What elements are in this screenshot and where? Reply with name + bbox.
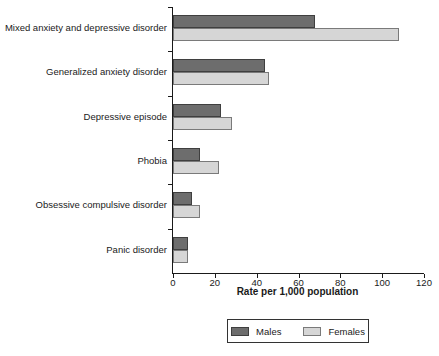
bar-males — [173, 192, 192, 205]
category-label: Obsessive compulsive disorder — [36, 199, 167, 211]
legend-swatch-females — [303, 327, 321, 336]
category-label: Panic disorder — [106, 244, 167, 256]
bar-females — [173, 161, 219, 174]
x-axis-title: Rate per 1,000 population — [172, 286, 423, 297]
bar-males — [173, 104, 221, 117]
legend-swatch-males — [231, 327, 249, 336]
bar-males — [173, 237, 188, 250]
plot-area — [172, 7, 424, 274]
y-axis-tick-mark — [168, 184, 172, 185]
bar-males — [173, 148, 200, 161]
y-axis-tick-mark — [168, 140, 172, 141]
bar-females — [173, 250, 188, 263]
bar-males — [173, 15, 315, 28]
bar-females — [173, 28, 399, 41]
legend-label-females: Females — [328, 326, 364, 337]
y-axis-tick-mark — [168, 229, 172, 230]
bar-females — [173, 72, 269, 85]
bar-females — [173, 117, 232, 130]
bar-males — [173, 59, 265, 72]
category-label: Phobia — [137, 155, 167, 167]
y-axis-tick-mark — [168, 96, 172, 97]
category-label: Depressive episode — [84, 111, 167, 123]
legend-label-males: Males — [256, 326, 281, 337]
category-label: Mixed anxiety and depressive disorder — [5, 22, 167, 34]
legend: Males Females — [227, 319, 369, 343]
bar-females — [173, 205, 200, 218]
y-axis-tick-mark — [168, 7, 172, 8]
legend-item-females: Females — [303, 326, 364, 337]
legend-item-males: Males — [231, 326, 281, 337]
y-axis-tick-mark — [168, 51, 172, 52]
bar-chart-figure: Mixed anxiety and depressive disorderGen… — [0, 0, 439, 356]
category-label: Generalized anxiety disorder — [46, 66, 167, 78]
